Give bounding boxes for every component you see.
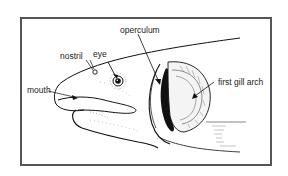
- label-nostril: nostril: [60, 52, 83, 61]
- label-eye: eye: [93, 50, 107, 59]
- label-operculum: operculum: [120, 26, 160, 35]
- label-first-gill-arch: first gill arch: [218, 78, 263, 87]
- label-mouth: mouth: [27, 86, 51, 95]
